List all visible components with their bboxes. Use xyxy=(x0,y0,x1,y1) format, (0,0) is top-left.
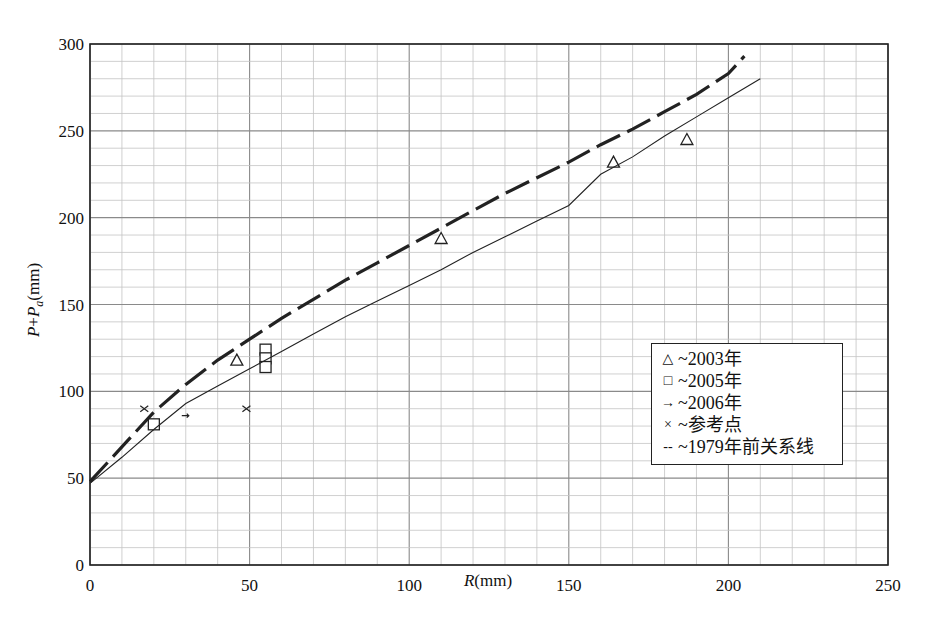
legend-label: ~2005年 xyxy=(678,370,742,392)
triangle-marker xyxy=(435,233,447,244)
square-marker xyxy=(148,419,159,430)
legend-item-reference: × ~参考点 xyxy=(658,414,836,436)
y-tick-label: 150 xyxy=(59,296,85,315)
legend-item-2006: → ~2006年 xyxy=(658,392,836,414)
dashed-line-icon: -- xyxy=(658,436,678,458)
legend-label: ~2003年 xyxy=(678,348,742,370)
triangle-marker-icon: △ xyxy=(658,348,678,370)
chart-legend: △ ~2003年 □ ~2005年 → ~2006年 × ~参考点 -- ~19… xyxy=(651,343,843,465)
y-axis-label: P+Pa(mm) xyxy=(24,263,46,338)
x-tick-label: 50 xyxy=(241,576,258,595)
legend-item-1979-line: -- ~1979年前关系线 xyxy=(658,436,836,458)
square-marker xyxy=(260,362,271,373)
x-marker-icon: × xyxy=(658,414,678,436)
x-tick-label: 0 xyxy=(86,576,95,595)
legend-item-2003: △ ~2003年 xyxy=(658,348,836,370)
y-tick-label: 300 xyxy=(59,35,85,54)
triangle-marker xyxy=(681,134,693,145)
y-tick-label: 0 xyxy=(76,556,85,575)
x-tick-label: 100 xyxy=(396,576,422,595)
x-tick-label: 200 xyxy=(716,576,742,595)
y-tick-label: 250 xyxy=(59,122,85,141)
y-tick-label: 100 xyxy=(59,382,85,401)
legend-label: ~2006年 xyxy=(678,392,742,414)
arrow-marker xyxy=(182,414,189,418)
x-axis-label: R(mm) xyxy=(463,571,512,590)
y-tick-label: 200 xyxy=(59,209,85,228)
triangle-marker xyxy=(231,354,243,365)
legend-label: ~1979年前关系线 xyxy=(678,436,814,458)
x-tick-label: 150 xyxy=(556,576,582,595)
arrow-marker-icon: → xyxy=(658,392,678,414)
y-tick-label: 50 xyxy=(67,469,84,488)
chart-plot-area: 050100150200250050100150200250300R(mm)P+… xyxy=(0,0,926,633)
chart: 050100150200250050100150200250300R(mm)P+… xyxy=(0,0,926,633)
x-tick-label: 250 xyxy=(875,576,901,595)
legend-label: ~参考点 xyxy=(678,414,742,436)
dashed-relation-line xyxy=(90,56,744,481)
square-marker-icon: □ xyxy=(658,370,678,392)
legend-item-2005: □ ~2005年 xyxy=(658,370,836,392)
